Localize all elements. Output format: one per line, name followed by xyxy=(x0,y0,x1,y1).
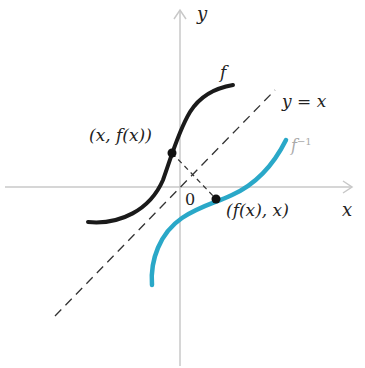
f-inverse-sup: −1 xyxy=(297,136,312,147)
curve-f-inverse-label: f−1 xyxy=(291,136,312,155)
diagram-canvas xyxy=(0,0,365,368)
line-y-equals-x-label: y = x xyxy=(282,91,326,111)
y-axis-label: y xyxy=(197,3,207,24)
inverse-function-diagram: y x 0 f y = x f−1 (x, f(x)) (f(x), x) xyxy=(0,0,365,368)
point-fx-x-label: (f(x), x) xyxy=(226,200,289,220)
x-axis-label: x xyxy=(342,199,352,220)
point-fx-x xyxy=(212,195,221,204)
origin-label: 0 xyxy=(185,190,195,209)
point-x-fx-label: (x, f(x)) xyxy=(89,125,152,145)
curve-f-label: f xyxy=(220,62,226,82)
point-x-fx xyxy=(168,149,177,158)
